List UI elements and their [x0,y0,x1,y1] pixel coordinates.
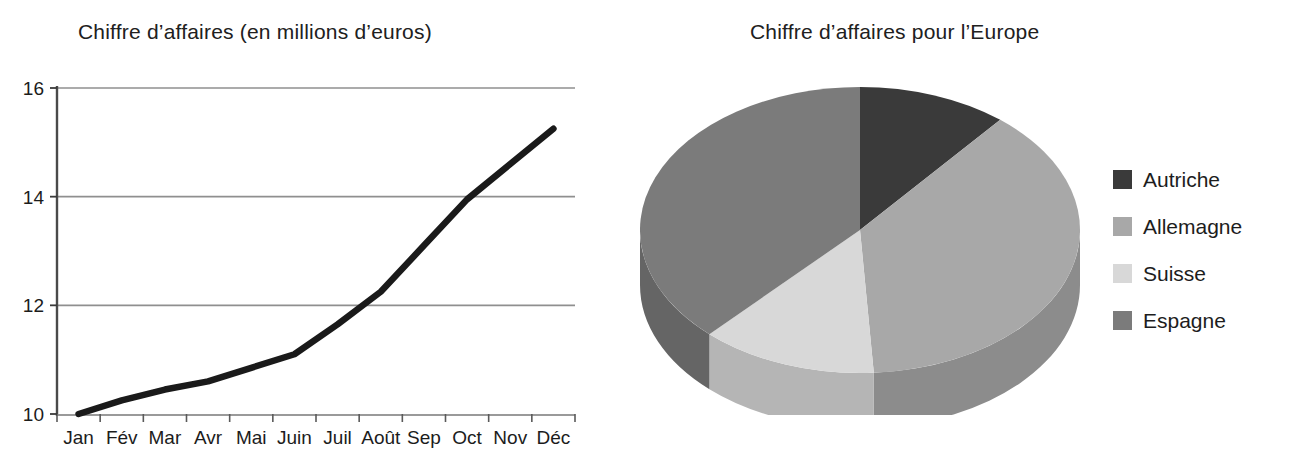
y-tick-labels: 10121416 [23,78,45,425]
legend-label-autriche: Autriche [1143,168,1220,192]
legend-item-autriche[interactable]: Autriche [1113,156,1293,203]
pie-legend: Autriche Allemagne Suisse Espagne [1113,156,1293,344]
legend-swatch-allemagne [1113,217,1132,236]
legend-swatch-autriche [1113,170,1132,189]
svg-text:Oct: Oct [452,427,482,448]
legend-item-espagne[interactable]: Espagne [1113,297,1293,344]
svg-text:Déc: Déc [537,427,571,448]
gridlines [57,88,575,305]
legend-label-espagne: Espagne [1143,309,1226,333]
svg-text:Fév: Fév [106,427,138,448]
svg-text:Juil: Juil [323,427,352,448]
svg-text:Juin: Juin [277,427,312,448]
svg-text:14: 14 [23,187,45,208]
figure-page: Chiffre d’affaires (en millions d’euros)… [0,0,1296,459]
svg-text:10: 10 [23,404,44,425]
svg-text:Mai: Mai [236,427,267,448]
svg-text:Avr: Avr [194,427,223,448]
line-chart: Chiffre d’affaires (en millions d’euros)… [0,0,620,459]
line-chart-plot: 10121416 JanFévMarAvrMaiJuinJuilAoûtSepO… [0,0,620,459]
svg-text:Août: Août [361,427,401,448]
data-line [79,129,554,414]
legend-item-suisse[interactable]: Suisse [1113,250,1293,297]
x-tick-labels: JanFévMarAvrMaiJuinJuilAoûtSepOctNovDéc [63,427,570,448]
pie-top-surface [640,87,1080,373]
pie-chart-graphic [640,85,1120,415]
legend-swatch-espagne [1113,311,1132,330]
svg-text:Jan: Jan [63,427,94,448]
legend-label-suisse: Suisse [1143,262,1206,286]
pie-chart-title: Chiffre d’affaires pour l’Europe [750,20,1039,44]
svg-text:12: 12 [23,295,44,316]
legend-swatch-suisse [1113,264,1132,283]
svg-text:Nov: Nov [493,427,527,448]
svg-text:16: 16 [23,78,44,99]
legend-item-allemagne[interactable]: Allemagne [1113,203,1293,250]
svg-text:Sep: Sep [407,427,441,448]
legend-label-allemagne: Allemagne [1143,215,1242,239]
svg-text:Mar: Mar [149,427,182,448]
